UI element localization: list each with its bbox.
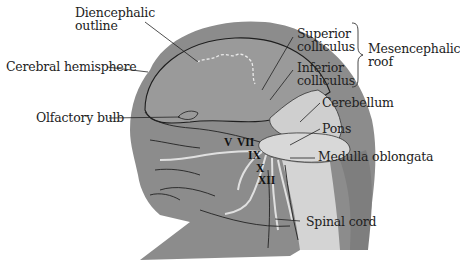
label-diencephalic-outline: Diencephalic outline <box>75 6 155 32</box>
label-mesencephalic-roof: Mesencephalic roof <box>368 42 460 68</box>
label-superior-colliculus: Superior colliculus <box>297 27 355 53</box>
label-line: colliculus <box>297 40 355 53</box>
label-cerebellum: Cerebellum <box>322 96 394 109</box>
label-line: outline <box>75 19 155 32</box>
label-pons: Pons <box>322 122 351 135</box>
label-inferior-colliculus: Inferior colliculus <box>297 61 355 87</box>
label-cerebral-hemisphere: Cerebral hemisphere <box>6 60 136 73</box>
label-spinal-cord: Spinal cord <box>306 215 376 228</box>
nerve-label-x: X <box>256 163 264 174</box>
nerve-label-vii: VII <box>237 137 254 148</box>
nerve-label-ix: IX <box>248 150 261 161</box>
label-medulla-oblongata: Medulla oblongata <box>318 150 433 163</box>
label-line: roof <box>368 55 460 68</box>
label-olfactory-bulb: Olfactory bulb <box>36 111 124 124</box>
nerve-label-v: V <box>224 137 232 148</box>
label-line: colliculus <box>297 74 355 87</box>
nerve-label-xii: XII <box>258 175 275 186</box>
